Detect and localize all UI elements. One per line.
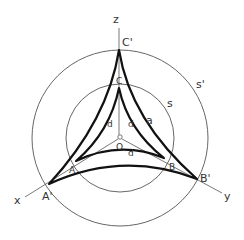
axis-z-label: z bbox=[113, 13, 119, 26]
vertex-a-label: A bbox=[69, 165, 76, 175]
vertex-c-label: C bbox=[116, 76, 122, 86]
center-point-o bbox=[118, 135, 122, 139]
axis-x-label: x bbox=[14, 194, 21, 207]
distance-d-label-2: d bbox=[128, 119, 134, 129]
axis-y-label: y bbox=[224, 190, 231, 203]
distance-d-label-1: d bbox=[107, 119, 113, 129]
diagram: z C' C s' s a d d O d A B A' B' x y bbox=[0, 0, 244, 240]
circle-inner-label: s bbox=[167, 97, 173, 110]
vertex-a-prime-label: A' bbox=[42, 190, 53, 203]
vertex-b-label: B bbox=[169, 162, 175, 172]
vertex-b-prime-label: B' bbox=[200, 172, 211, 185]
center-o-label: O bbox=[116, 142, 123, 152]
distance-d-label-3: d bbox=[128, 148, 134, 158]
side-a-label: a bbox=[146, 114, 153, 127]
vertex-c-prime-label: C' bbox=[122, 36, 133, 49]
circle-outer-label: s' bbox=[196, 78, 205, 91]
